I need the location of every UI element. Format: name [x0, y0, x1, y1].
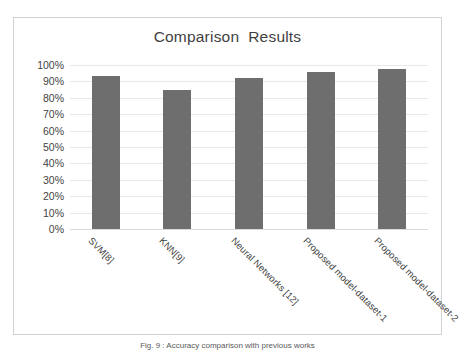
x-axis-category-label: SVM[8] — [86, 235, 116, 265]
figure-caption: Fig. 9 : Accuracy comparison with previo… — [0, 341, 455, 350]
chart-frame: Comparison Results 100%90%80%70%60%50%40… — [13, 17, 442, 335]
bar[interactable] — [307, 72, 335, 229]
x-axis-category-label: Proposed model-dataset-2 — [372, 235, 461, 324]
gridline — [70, 65, 428, 66]
chart-title: Comparison Results — [14, 28, 441, 46]
y-axis-tick-label: 100% — [37, 59, 64, 71]
x-axis-category-label: Neural Networks [12] — [229, 235, 301, 307]
bar[interactable] — [163, 90, 191, 229]
x-axis-category-label: KNN[9] — [158, 235, 188, 265]
x-axis-category-label: Proposed model-dataset-1 — [301, 235, 390, 324]
y-axis-tick-label: 30% — [43, 174, 64, 186]
y-axis-tick-label: 0% — [49, 223, 64, 235]
y-axis-tick-label: 20% — [43, 190, 64, 202]
y-axis-tick-label: 70% — [43, 108, 64, 120]
bar[interactable] — [235, 78, 263, 229]
gridline — [70, 229, 428, 230]
y-axis-tick-label: 10% — [43, 207, 64, 219]
y-axis-tick-label: 90% — [43, 75, 64, 87]
y-axis-tick-label: 40% — [43, 157, 64, 169]
y-axis-tick-label: 80% — [43, 92, 64, 104]
bar[interactable] — [92, 76, 120, 229]
y-axis-tick-label: 50% — [43, 141, 64, 153]
y-axis-tick-label: 60% — [43, 125, 64, 137]
plot-area: 100%90%80%70%60%50%40%30%20%10%0%SVM[8]K… — [70, 65, 428, 229]
bar[interactable] — [378, 69, 406, 229]
